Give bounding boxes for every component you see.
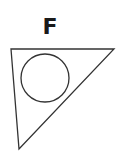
triangle-shape (11, 49, 114, 149)
diagram-canvas (0, 0, 128, 157)
circle-shape (21, 54, 69, 102)
